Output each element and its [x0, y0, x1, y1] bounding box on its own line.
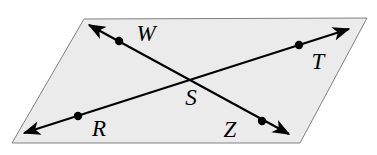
point-dot-t: [295, 41, 303, 49]
point-label-r: R: [91, 116, 106, 141]
point-dot-r: [74, 112, 82, 120]
point-dot-w: [115, 37, 123, 45]
point-label-z: Z: [224, 117, 237, 142]
point-label-w: W: [136, 21, 157, 46]
geometry-canvas: W T S R Z: [0, 0, 377, 155]
geometry-diagram: W T S R Z: [0, 0, 377, 155]
point-label-s: S: [185, 85, 197, 110]
point-dot-z: [258, 117, 266, 125]
point-label-t: T: [312, 49, 327, 74]
